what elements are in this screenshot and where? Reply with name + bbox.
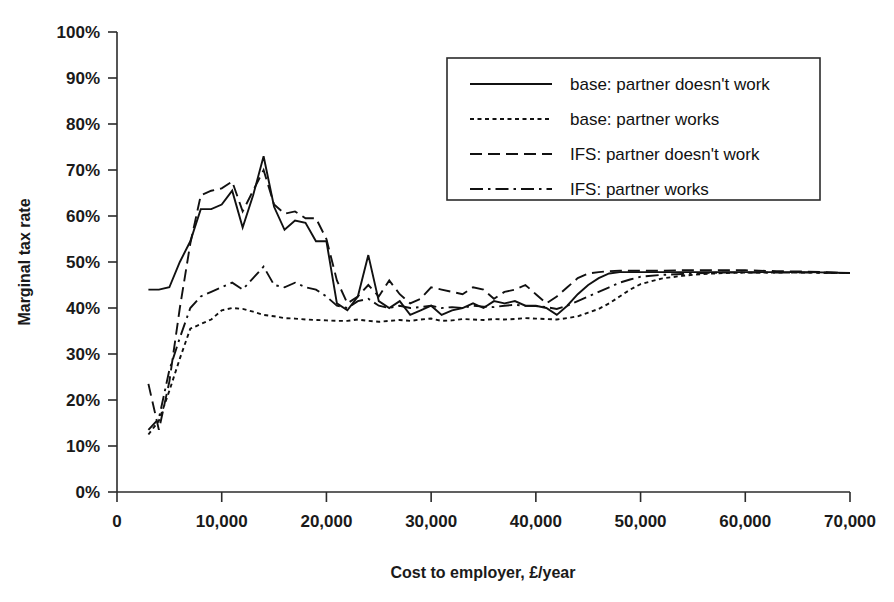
x-axis-title: Cost to employer, £/year: [391, 564, 576, 581]
y-tick-label: 100%: [57, 23, 100, 42]
x-tick-label: 40,000: [510, 512, 562, 531]
y-tick-label: 70%: [66, 161, 100, 180]
y-tick-label: 30%: [66, 345, 100, 364]
y-tick-label: 60%: [66, 207, 100, 226]
series-line-1: [148, 273, 850, 435]
chart-legend: base: partner doesn't workbase: partner …: [447, 58, 820, 200]
x-tick-label: 70,000: [824, 512, 876, 531]
x-tick-label: 0: [112, 512, 121, 531]
y-tick-label: 10%: [66, 437, 100, 456]
x-tick-label: 30,000: [405, 512, 457, 531]
legend-label-0: base: partner doesn't work: [570, 75, 770, 94]
series-line-3: [148, 267, 850, 430]
y-tick-label: 0%: [75, 483, 100, 502]
series-line-2: [148, 170, 850, 430]
marginal-tax-rate-chart: 0%10%20%30%40%50%60%70%80%90%100% 010,00…: [0, 0, 894, 602]
y-tick-label: 50%: [66, 253, 100, 272]
y-axis-title: Marginal tax rate: [16, 198, 33, 325]
y-tick-label: 40%: [66, 299, 100, 318]
x-tick-label: 50,000: [615, 512, 667, 531]
y-axis-ticks: 0%10%20%30%40%50%60%70%80%90%100%: [57, 23, 117, 502]
x-tick-label: 60,000: [719, 512, 771, 531]
y-tick-label: 90%: [66, 69, 100, 88]
legend-label-2: IFS: partner doesn't work: [570, 145, 760, 164]
legend-label-3: IFS: partner works: [570, 180, 709, 199]
x-tick-label: 20,000: [300, 512, 352, 531]
y-tick-label: 80%: [66, 115, 100, 134]
x-tick-label: 10,000: [196, 512, 248, 531]
chart-canvas: 0%10%20%30%40%50%60%70%80%90%100% 010,00…: [0, 0, 894, 602]
x-axis-ticks: 010,00020,00030,00040,00050,00060,00070,…: [112, 492, 876, 531]
legend-label-1: base: partner works: [570, 110, 719, 129]
y-tick-label: 20%: [66, 391, 100, 410]
